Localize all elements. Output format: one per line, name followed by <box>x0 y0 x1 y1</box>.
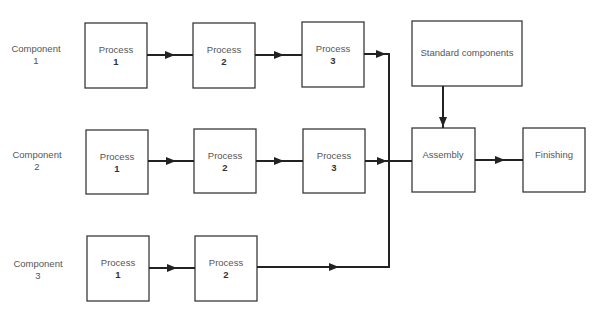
process-number: 1 <box>115 269 121 280</box>
component-3-label: Component <box>13 258 62 269</box>
process-label: Process <box>99 44 134 55</box>
process-label: Process <box>317 150 352 161</box>
component-2-number: 2 <box>34 161 39 172</box>
process-box-c3-p1: Process 1 <box>87 236 149 301</box>
process-label: Process <box>100 151 135 162</box>
process-box-c3-p2: Process 2 <box>195 236 257 301</box>
process-label: Process <box>208 150 243 161</box>
process-number: 3 <box>331 162 336 173</box>
process-number: 1 <box>114 163 120 174</box>
finishing-box: Finishing <box>523 128 585 192</box>
component-3-number: 3 <box>35 270 40 281</box>
component-2-label: Component <box>12 149 61 160</box>
process-label: Process <box>207 44 242 55</box>
process-number: 2 <box>222 162 227 173</box>
process-label: Process <box>316 43 351 54</box>
process-box-c1-p2: Process 2 <box>193 23 255 88</box>
process-number: 2 <box>221 56 226 67</box>
component-1-number: 1 <box>33 55 38 66</box>
process-box-c2-p1: Process 1 <box>86 130 148 194</box>
assembly-label: Assembly <box>422 149 463 160</box>
assembly-box: Assembly <box>412 128 475 192</box>
process-box-c1-p3: Process 3 <box>302 22 364 87</box>
standard-components-box: Standard components <box>412 21 522 86</box>
process-label: Process <box>209 257 244 268</box>
process-box-c1-p1: Process 1 <box>85 23 147 88</box>
process-number: 2 <box>223 269 228 280</box>
process-number: 1 <box>113 56 119 67</box>
process-box-c2-p2: Process 2 <box>194 129 256 193</box>
finishing-label: Finishing <box>535 149 573 160</box>
process-box-c2-p3: Process 3 <box>303 129 365 193</box>
component-1-label: Component <box>11 43 60 54</box>
standard-components-label: Standard components <box>421 47 514 58</box>
process-number: 3 <box>330 55 335 66</box>
process-label: Process <box>101 257 136 268</box>
process-flow-diagram: Component 1 Process 1 Process 2 Process … <box>0 0 600 317</box>
